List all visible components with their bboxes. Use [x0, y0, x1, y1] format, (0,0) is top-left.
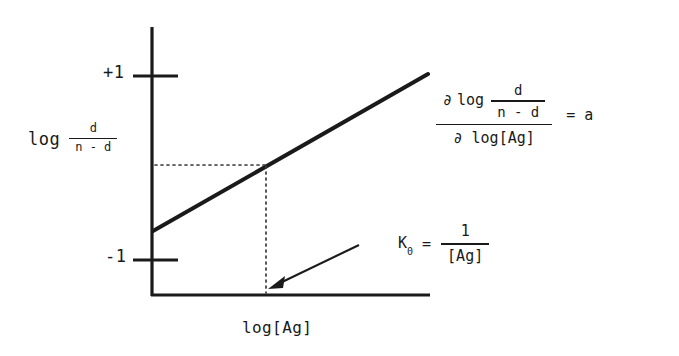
y-axis-label: log d n - d	[28, 122, 117, 155]
data-line	[153, 74, 428, 231]
k-zero-equals-sign: =	[422, 235, 431, 253]
k-zero-arrow-shaft	[280, 245, 359, 283]
k-zero-numerator: 1	[455, 223, 476, 241]
derivative-result-value: a	[584, 106, 593, 124]
y-axis-label-denominator: n - d	[69, 141, 117, 155]
partial-symbol-numerator: ∂	[443, 92, 452, 109]
fraction-bar	[436, 124, 552, 126]
y-axis-label-fraction: d n - d	[69, 122, 117, 155]
k-zero-symbol: K0	[398, 234, 413, 254]
k-zero-fraction: 1 [Ag]	[441, 223, 489, 265]
figure-canvas: +1 -1 log d n - d log[Ag] ∂ log d n - d	[0, 0, 679, 356]
derivative-inner-denominator: n - d	[491, 104, 545, 120]
k-zero-subscript: 0	[407, 246, 413, 257]
equals-sign: =	[566, 106, 575, 124]
k-zero-letter: K	[398, 234, 407, 252]
fraction-bar	[441, 243, 489, 245]
k-zero-arrow-head	[268, 276, 285, 289]
fraction-bar	[491, 100, 545, 102]
derivative-equation: ∂ log d n - d ∂ log[Ag] = a	[436, 82, 593, 147]
derivative-numerator: ∂ log d n - d	[436, 82, 552, 122]
derivative-denominator: ∂ log[Ag]	[447, 127, 542, 147]
k-zero-denominator: [Ag]	[441, 247, 489, 265]
fraction-bar	[69, 138, 117, 140]
y-axis-label-numerator: d	[84, 122, 103, 136]
derivative-inner-numerator: d	[508, 82, 528, 98]
y-tick-label-minus-one: -1	[105, 246, 126, 266]
derivative-numerator-log: log	[457, 92, 484, 109]
y-axis-label-lead: log	[28, 129, 60, 149]
k-zero-equation: K0 = 1 [Ag]	[398, 223, 489, 265]
derivative-result: = a	[566, 106, 593, 124]
y-tick-label-plus-one: +1	[103, 62, 124, 82]
x-axis-label: log[Ag]	[242, 318, 312, 337]
plot-graphics	[0, 0, 679, 356]
derivative-outer-fraction: ∂ log d n - d ∂ log[Ag]	[436, 82, 552, 147]
derivative-inner-fraction: d n - d	[491, 82, 545, 120]
derivative-numerator-lead: ∂ log	[443, 92, 484, 109]
